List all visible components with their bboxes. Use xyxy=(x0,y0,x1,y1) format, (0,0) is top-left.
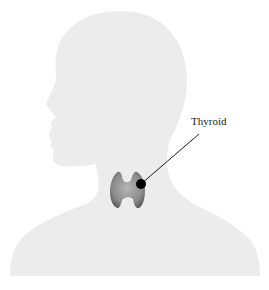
head-silhouette-diagram xyxy=(0,0,269,290)
body-silhouette xyxy=(10,11,260,276)
thyroid-marker xyxy=(136,179,146,189)
thyroid-label: Thyroid xyxy=(191,115,226,127)
